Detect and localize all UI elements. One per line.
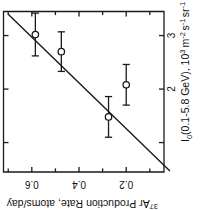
svg-text:3: 3 <box>166 32 177 38</box>
x-title-unit-exponent: 3 <box>178 50 187 54</box>
y-axis-title: 37Ar Production Rate, atoms/day <box>6 198 158 210</box>
svg-text:37Ar Production Rate, atoms/da: 37Ar Production Rate, atoms/day <box>6 198 158 210</box>
x-title-unit-m: m <box>179 39 191 48</box>
chart-background <box>0 0 200 210</box>
svg-text:0.2: 0.2 <box>119 179 133 190</box>
y-tick-label: 0.6 <box>24 179 38 190</box>
x-title-unit-base: 10 <box>179 54 191 66</box>
svg-text:0.4: 0.4 <box>72 179 86 190</box>
y-title-superscript: 37 <box>150 202 158 210</box>
y-tick-label: 0.2 <box>119 179 133 190</box>
chart-canvas: 23 0.20.40.6 I0(0.1-5.8 GeV),103m-2s-1sr… <box>0 0 200 210</box>
y-tick-label: 0.4 <box>72 179 86 190</box>
svg-text:0.6: 0.6 <box>24 179 38 190</box>
x-title-paren: (0.1-5.8 GeV), <box>179 68 191 135</box>
x-tick-label: 2 <box>166 86 177 92</box>
svg-text:2: 2 <box>166 86 177 92</box>
figure-root: 23 0.20.40.6 I0(0.1-5.8 GeV),103m-2s-1sr… <box>0 0 200 210</box>
x-tick-label: 3 <box>166 32 177 38</box>
x-title-unit-sr-exponent: -1 <box>178 2 187 9</box>
x-title-unit-m-exponent: -2 <box>178 32 187 39</box>
x-title-unit-s-exponent: -1 <box>178 19 187 26</box>
y-title-main: Ar Production Rate, atoms/day <box>6 198 150 210</box>
